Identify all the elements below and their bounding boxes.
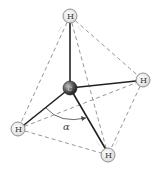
angle-arrowhead [81, 116, 86, 121]
angle-alpha-label: α [63, 121, 70, 132]
edge-top-left [18, 16, 70, 129]
atom-hydrogen-right: H [136, 73, 150, 87]
tetrahedron-edges [18, 16, 143, 155]
diagram-canvas: α C H H H H [0, 0, 159, 174]
hydrogen-label: H [15, 125, 22, 134]
bonds [24, 23, 136, 148]
edge-top-right [70, 16, 143, 80]
carbon-label: C [68, 85, 73, 92]
atom-hydrogen-bottom: H [101, 148, 115, 162]
hydrogen-label: H [140, 76, 147, 85]
atom-carbon: C [63, 81, 77, 95]
methane-tetrahedron-diagram: α C H H H H [0, 0, 159, 174]
bond-c-h-left [24, 88, 70, 125]
edge-left-bottom [18, 129, 108, 155]
hydrogen-label: H [105, 151, 112, 160]
hydrogen-label: H [67, 12, 74, 21]
edge-right-bottom [108, 80, 143, 155]
atom-hydrogen-left: H [11, 122, 25, 136]
atom-hydrogen-top: H [63, 9, 77, 23]
